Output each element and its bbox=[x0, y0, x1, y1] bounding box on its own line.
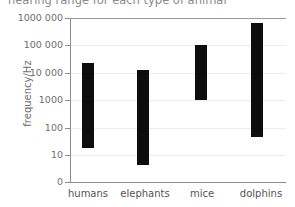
x-axis-line bbox=[71, 182, 286, 183]
y-tick-label-1000: 1000 bbox=[39, 95, 63, 105]
x-tick-label-humans: humans bbox=[58, 188, 118, 200]
bar-humans bbox=[82, 63, 94, 148]
y-tick-mark-10 bbox=[65, 155, 71, 156]
y-tick-label-100: 100 bbox=[45, 123, 63, 133]
y-tick-label-1000000: 1000 000 bbox=[18, 13, 63, 23]
bar-dolphins bbox=[251, 23, 263, 137]
y-tick-mark-100 bbox=[65, 128, 71, 129]
chart-container: hearing range for each type of animal 10… bbox=[0, 0, 295, 207]
gridline-1000000 bbox=[71, 18, 286, 19]
y-tick-mark-1000000 bbox=[65, 18, 71, 19]
y-tick-label-10: 10 bbox=[51, 150, 63, 160]
y-tick-mark-0 bbox=[65, 182, 71, 183]
y-tick-mark-100000 bbox=[65, 45, 71, 46]
bar-elephants bbox=[137, 70, 149, 165]
chart-title: hearing range for each type of animal bbox=[8, 0, 293, 7]
y-tick-mark-10000 bbox=[65, 73, 71, 74]
x-tick-label-dolphins: dolphins bbox=[228, 188, 294, 200]
x-tick-label-mice: mice bbox=[174, 188, 230, 200]
x-tick-label-elephants: elephants bbox=[112, 188, 178, 200]
y-axis-title: frequency/Hz bbox=[22, 39, 33, 149]
bar-mice bbox=[195, 45, 207, 100]
gridline-10 bbox=[71, 155, 286, 156]
y-tick-mark-1000 bbox=[65, 100, 71, 101]
y-tick-label-0: 0 bbox=[57, 177, 63, 187]
y-tick-label-10000: 10 000 bbox=[30, 68, 63, 78]
plot-area bbox=[71, 18, 286, 182]
